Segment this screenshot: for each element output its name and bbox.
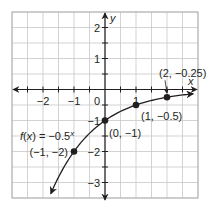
point-label: (2, −0.25) [159,67,206,79]
point-label: (0, −1) [109,127,141,139]
data-point [102,117,109,124]
y-tick-label: 2 [94,22,100,34]
function-graph: −2−10121−1−2−3yx(−1, −2)(0, −1)(1, −0.5)… [0,0,207,213]
function-curve [51,94,194,194]
y-tick-label: 1 [94,53,100,65]
data-point [71,148,78,155]
labels: −2−10121−1−2−3yx(−1, −2)(0, −1)(1, −0.5)… [20,12,206,189]
x-tick-label: −2 [37,95,50,107]
point-label: (−1, −2) [29,146,68,158]
x-tick-label: 0 [94,95,100,107]
y-tick-label: −2 [87,146,100,158]
y-axis-label: y [109,12,117,24]
axes [13,13,197,200]
x-tick-label: −1 [68,95,81,107]
point-label: (1, −0.5) [141,110,182,122]
y-tick-label: −1 [87,115,100,127]
data-point [164,94,171,101]
function-label: f(x) = −0.5x [20,129,75,142]
x-tick-label: 1 [133,95,139,107]
y-tick-label: −3 [87,177,100,189]
